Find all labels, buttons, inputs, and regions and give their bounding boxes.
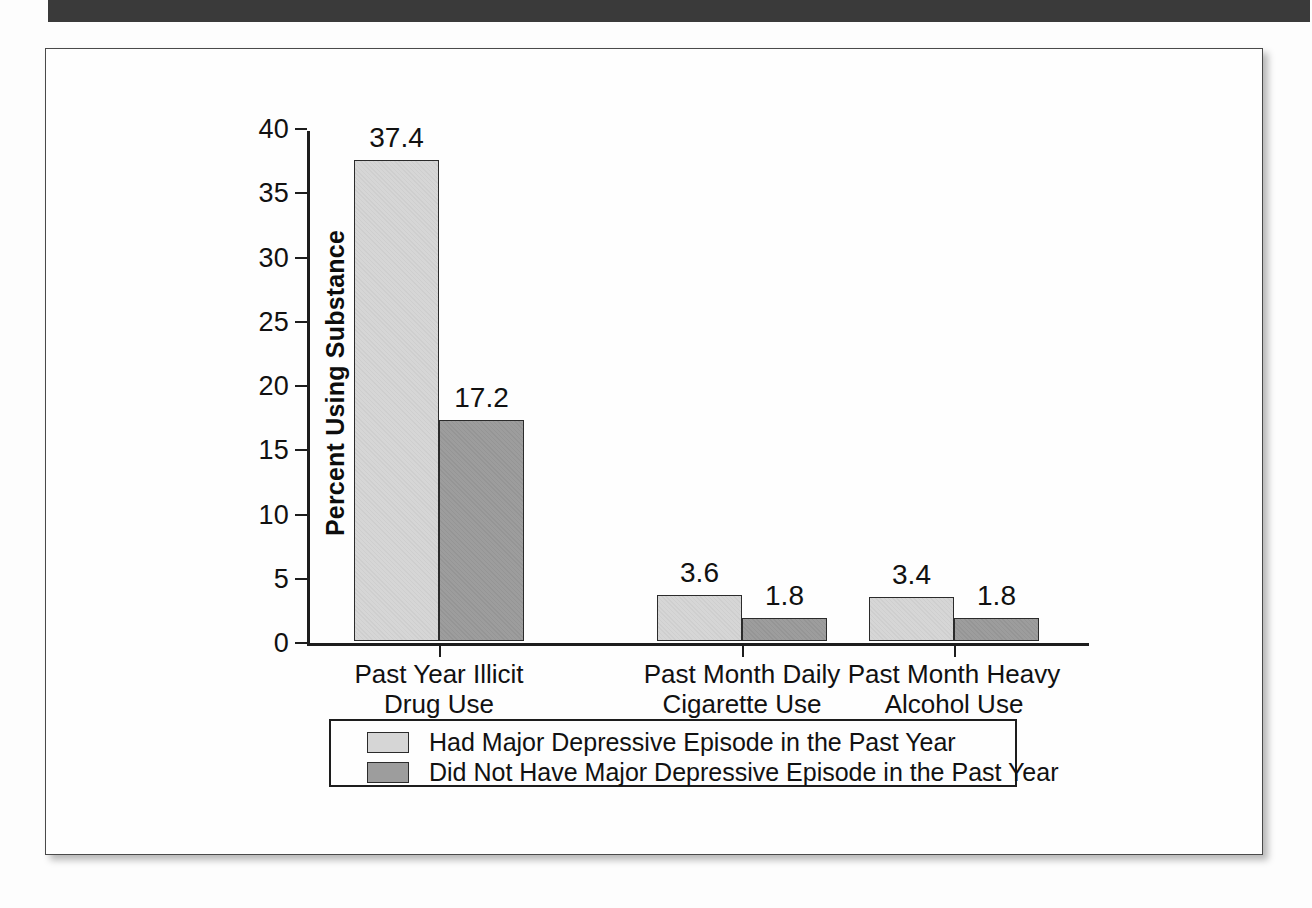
bar-0-series-1 [439, 420, 524, 641]
y-axis-tick [295, 192, 307, 194]
y-axis-tick-label: 0 [274, 628, 289, 659]
bar-value-label: 1.8 [765, 580, 804, 612]
y-axis-tick-label: 30 [259, 242, 289, 273]
x-axis-line [307, 643, 1089, 646]
legend-label: Did Not Have Major Depressive Episode in… [429, 758, 1059, 787]
legend-swatch [367, 762, 409, 783]
x-axis-tick [954, 645, 956, 657]
category-label-line: Drug Use [354, 689, 523, 719]
y-axis-tick-label: 15 [259, 435, 289, 466]
category-label-line: Alcohol Use [848, 689, 1060, 719]
x-axis-category-label: Past Year IllicitDrug Use [354, 659, 523, 719]
y-axis-tick [295, 321, 307, 323]
bar-value-label: 3.4 [892, 559, 931, 591]
bar-value-label: 3.6 [680, 557, 719, 589]
y-axis-tick [295, 128, 307, 130]
x-axis-tick [742, 645, 744, 657]
category-label-line: Past Month Heavy [848, 659, 1060, 689]
y-axis-tick-label: 20 [259, 371, 289, 402]
y-axis-title: Percent Using Substance [321, 230, 350, 536]
x-axis-tick [439, 645, 441, 657]
bar-2-series-1 [954, 618, 1039, 641]
chart-legend: Had Major Depressive Episode in the Past… [329, 719, 1017, 787]
y-axis-tick [295, 642, 307, 644]
y-axis-tick-label: 10 [259, 499, 289, 530]
x-axis-category-label: Past Month HeavyAlcohol Use [848, 659, 1060, 719]
y-axis-tick-label: 5 [274, 563, 289, 594]
category-label-line: Cigarette Use [644, 689, 841, 719]
y-axis-line [307, 131, 310, 645]
y-axis-tick [295, 449, 307, 451]
legend-item: Did Not Have Major Depressive Episode in… [331, 757, 1015, 787]
y-axis-tick-label: 35 [259, 178, 289, 209]
category-label-line: Past Year Illicit [354, 659, 523, 689]
legend-item: Had Major Depressive Episode in the Past… [331, 727, 1015, 757]
bar-1-series-0 [657, 595, 742, 641]
scan-header-bar [48, 0, 1310, 22]
bar-2-series-0 [869, 597, 954, 641]
legend-swatch [367, 732, 409, 753]
legend-label: Had Major Depressive Episode in the Past… [429, 728, 956, 757]
y-axis-tick-label: 25 [259, 306, 289, 337]
y-axis-tick [295, 385, 307, 387]
y-axis-tick [295, 514, 307, 516]
y-axis-tick [295, 578, 307, 580]
plot-area: Percent Using Substance 0510152025303540… [307, 119, 1097, 647]
bar-1-series-1 [742, 618, 827, 641]
bar-value-label: 17.2 [454, 382, 509, 414]
category-label-line: Past Month Daily [644, 659, 841, 689]
bar-value-label: 37.4 [369, 122, 424, 154]
y-axis-tick [295, 257, 307, 259]
x-axis-category-label: Past Month DailyCigarette Use [644, 659, 841, 719]
bar-value-label: 1.8 [977, 580, 1016, 612]
chart-panel: Percent Using Substance 0510152025303540… [45, 48, 1263, 855]
y-axis-tick-label: 40 [259, 114, 289, 145]
bar-0-series-0 [354, 160, 439, 641]
